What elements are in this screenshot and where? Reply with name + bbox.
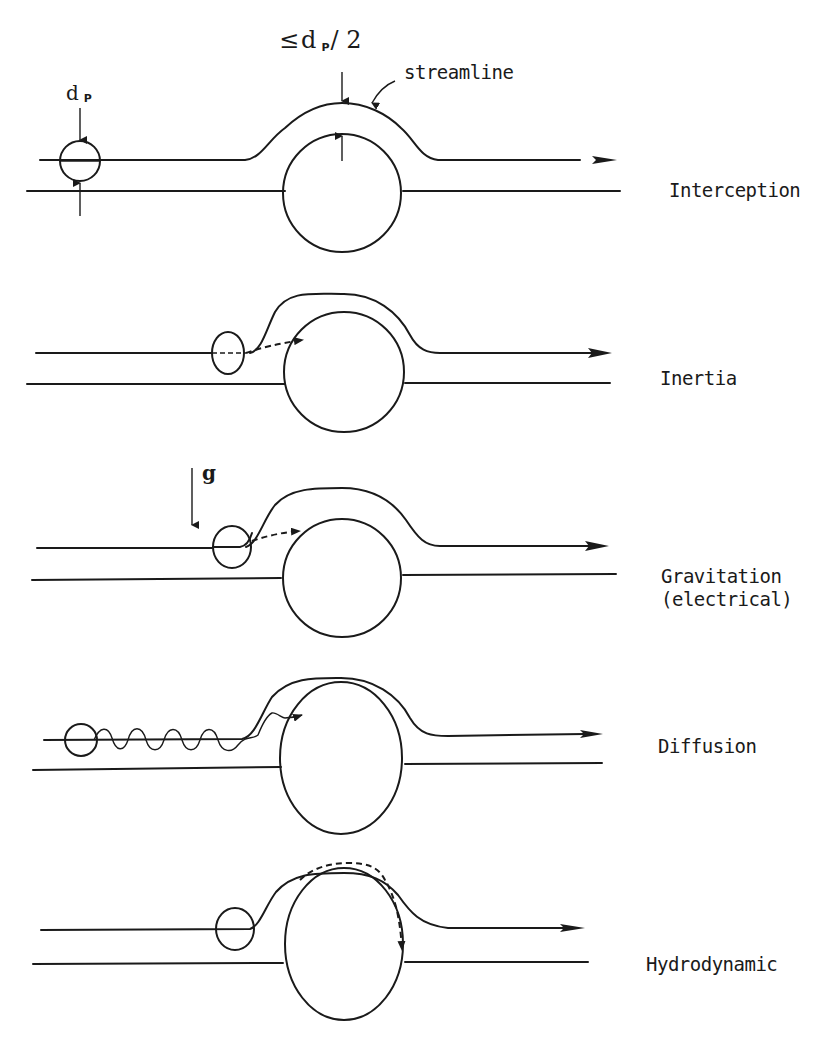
collector-circle [283, 519, 401, 637]
distance-suffix: / 2 [331, 26, 362, 54]
label-interception: Interception [669, 179, 800, 202]
label-gravitation: Gravitation (electrical) [661, 565, 792, 611]
panel-hydrodynamic [33, 863, 588, 1020]
collector-circle [285, 868, 403, 1020]
particle-diameter-symbol: d [66, 81, 79, 105]
label-diffusion: Diffusion [658, 735, 756, 758]
panel-diffusion [33, 678, 603, 834]
panel-inertia [27, 294, 612, 432]
collector-circle [284, 312, 404, 432]
panel-interception [27, 72, 620, 252]
particle-diameter-subscript: P [84, 92, 92, 105]
axis-line [403, 574, 616, 575]
distance-d-symbol: d [301, 26, 316, 54]
axis-line [33, 963, 283, 964]
gravity-label: g [202, 461, 216, 485]
label-inertia: Inertia [660, 367, 737, 390]
flow-arrow [592, 156, 617, 164]
streamline-pointer [372, 81, 395, 103]
axis-line [405, 763, 602, 764]
streamline-label: streamline [404, 61, 513, 84]
axis-line [33, 767, 281, 770]
collector-circle [280, 682, 402, 834]
axis-line [32, 578, 281, 580]
streamline [36, 294, 598, 353]
panel-gravitation [32, 468, 616, 637]
mechanisms-diagram [0, 0, 831, 1051]
label-hydrodynamic: Hydrodynamic [646, 953, 777, 976]
streamline [40, 103, 580, 160]
brownian-path [94, 713, 302, 751]
particle-streamline [213, 533, 252, 547]
particle-diameter-label: dP [66, 81, 92, 105]
hydrodynamic-trajectory [300, 863, 402, 950]
streamline [41, 873, 570, 930]
streamline [37, 488, 590, 548]
interception-distance-label: ≤dP/ 2 [279, 26, 362, 54]
distance-subscript: P [321, 41, 329, 54]
less-equal-symbol: ≤ [279, 26, 299, 54]
streamline [44, 678, 585, 740]
